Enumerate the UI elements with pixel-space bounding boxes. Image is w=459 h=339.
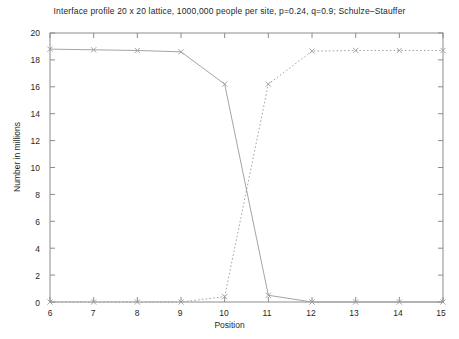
axis-frame — [50, 33, 443, 302]
series-descending-profile — [47, 47, 445, 305]
data-series-layer — [47, 47, 445, 305]
plot-canvas — [0, 0, 459, 339]
plot-border — [50, 33, 443, 302]
series-line — [50, 49, 443, 302]
data-point-marker — [353, 48, 358, 53]
data-point-marker — [266, 82, 271, 87]
x-tick-marks — [50, 33, 443, 302]
y-tick-marks — [50, 33, 443, 302]
chart-figure: Interface profile 20 x 20 lattice, 1000,… — [0, 0, 459, 339]
series-ascending-profile — [47, 48, 445, 305]
series-line — [50, 50, 443, 302]
